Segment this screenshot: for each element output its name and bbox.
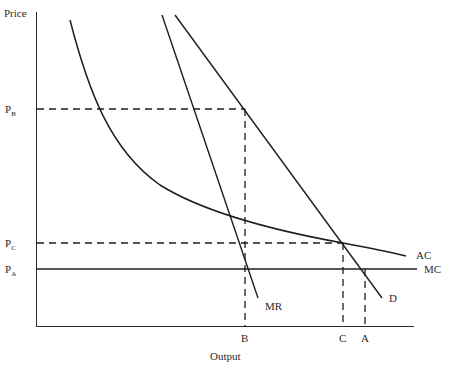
ac-curve xyxy=(70,20,406,256)
output-b-label: B xyxy=(241,332,248,344)
monopoly-cost-diagram: Price Output PB PC PA B C A MR D AC MC xyxy=(0,0,452,368)
mc-label: MC xyxy=(424,263,441,275)
mr-line xyxy=(162,15,258,298)
demand-line xyxy=(175,15,382,298)
demand-label: D xyxy=(389,292,397,304)
y-axis-title: Price xyxy=(4,7,27,19)
x-axis-title: Output xyxy=(210,350,241,362)
output-c-label: C xyxy=(339,332,346,344)
ac-label: AC xyxy=(416,249,431,261)
output-a-label: A xyxy=(361,332,369,344)
pa-label: PA xyxy=(5,263,16,278)
pc-label: PC xyxy=(5,237,16,252)
pb-label: PB xyxy=(5,103,16,118)
mr-label: MR xyxy=(265,300,283,312)
